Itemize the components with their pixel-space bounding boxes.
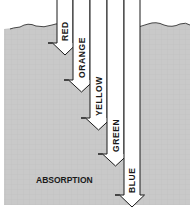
arrow-label-red: RED [60,21,70,41]
light-absorption-diagram: REDORANGEYELLOWGREENBLUE ABSORPTION [0,0,195,211]
arrow-label-blue: BLUE [127,167,137,193]
absorption-label: ABSORPTION [36,175,93,185]
arrow-label-orange: ORANGE [77,37,87,78]
arrow-label-green: GREEN [111,119,121,152]
arrow-label-yellow: YELLOW [94,76,104,116]
